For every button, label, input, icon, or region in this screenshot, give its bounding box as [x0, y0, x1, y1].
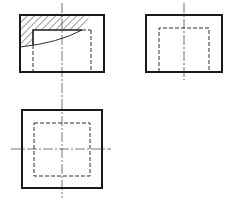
front-view [20, 3, 104, 100]
orthographic-drawing [0, 0, 232, 210]
side-hidden-hole [159, 28, 209, 72]
top-view [11, 100, 111, 198]
side-view [146, 3, 222, 80]
front-section-edge [33, 30, 82, 45]
